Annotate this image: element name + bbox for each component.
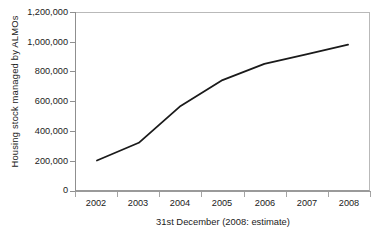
y-axis-line: [75, 12, 76, 192]
x-tick-label: 2002: [73, 198, 119, 208]
x-tick-mark: [286, 192, 287, 197]
y-tick-label: 1,000,000: [0, 38, 68, 47]
x-axis-line: [75, 191, 371, 192]
y-tick-label: 600,000: [0, 97, 68, 106]
x-tick-mark: [370, 192, 371, 197]
chart-figure: Housing stock managed by ALMOs 1,200,000…: [0, 0, 381, 242]
x-tick-mark: [201, 192, 202, 197]
y-tick-label: 0: [0, 186, 68, 195]
x-tick-label: 2004: [157, 198, 203, 208]
x-tick-label: 2005: [199, 198, 245, 208]
x-tick-label: 2006: [242, 198, 288, 208]
x-tick-label: 2008: [326, 198, 372, 208]
x-tick-mark: [75, 192, 76, 197]
x-axis-title: 31st December (2008: estimate): [75, 216, 371, 227]
data-series-line: [97, 45, 348, 161]
x-tick-mark: [328, 192, 329, 197]
x-tick-mark: [244, 192, 245, 197]
plot-area: [75, 12, 370, 191]
x-tick-label: 2007: [284, 198, 330, 208]
data-line-svg: [76, 13, 369, 190]
y-axis-tick-labels: 1,200,000 1,000,000 800,000 600,000 400,…: [0, 0, 68, 200]
x-tick-mark: [159, 192, 160, 197]
y-tick-label: 200,000: [0, 157, 68, 166]
y-tick-label: 400,000: [0, 127, 68, 136]
x-tick-label: 2003: [115, 198, 161, 208]
y-tick-label: 800,000: [0, 67, 68, 76]
x-tick-mark: [117, 192, 118, 197]
y-tick-label: 1,200,000: [0, 8, 68, 17]
